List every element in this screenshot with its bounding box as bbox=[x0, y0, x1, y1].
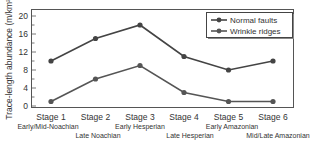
legend: Normal faultsWrinkle ridges bbox=[207, 13, 295, 40]
period-label: Mid/Late Amazonian bbox=[246, 132, 310, 139]
y-tick-label: 4 bbox=[23, 83, 28, 93]
y-tick-label: 20 bbox=[19, 11, 29, 21]
y-tick-label: 0 bbox=[23, 101, 28, 111]
data-point bbox=[48, 99, 53, 104]
legend-marker bbox=[217, 29, 222, 34]
x-tick-label: Stage 4 bbox=[169, 112, 199, 122]
legend-label: Normal faults bbox=[230, 16, 277, 25]
x-tick-label: Stage 3 bbox=[125, 112, 155, 122]
data-point bbox=[270, 58, 275, 63]
data-point bbox=[93, 76, 98, 81]
x-tick-label: Stage 2 bbox=[81, 112, 111, 122]
data-point bbox=[48, 58, 53, 63]
x-tick-label: Stage 5 bbox=[214, 112, 244, 122]
period-label: Early Amazonian bbox=[206, 123, 259, 131]
period-label: Early Hesperian bbox=[115, 123, 165, 131]
period-label: Late Noachian bbox=[75, 132, 120, 139]
data-point bbox=[137, 63, 142, 68]
line-chart: 048121620 Trace-length abundance (m/km²)… bbox=[0, 0, 316, 148]
data-point bbox=[137, 22, 142, 27]
y-tick-label: 8 bbox=[23, 65, 28, 75]
legend-marker bbox=[217, 18, 222, 23]
y-axis-label: Trace-length abundance (m/km²) bbox=[4, 0, 14, 120]
x-tick-label: Stage 1 bbox=[36, 112, 66, 122]
y-tick-label: 12 bbox=[19, 47, 29, 57]
data-point bbox=[226, 99, 231, 104]
x-tick-label: Stage 6 bbox=[258, 112, 288, 122]
period-label: Early/Mid-Noachian bbox=[17, 123, 78, 131]
data-point bbox=[93, 36, 98, 41]
data-point bbox=[226, 67, 231, 72]
x-axis-labels: Stage 1Stage 2Stage 3Stage 4Stage 5Stage… bbox=[17, 112, 309, 140]
period-label: Late Hesperian bbox=[166, 132, 214, 140]
data-point bbox=[270, 99, 275, 104]
y-tick-label: 16 bbox=[19, 29, 29, 39]
legend-label: Wrinkle ridges bbox=[230, 27, 281, 36]
data-point bbox=[181, 90, 186, 95]
data-point bbox=[181, 54, 186, 59]
